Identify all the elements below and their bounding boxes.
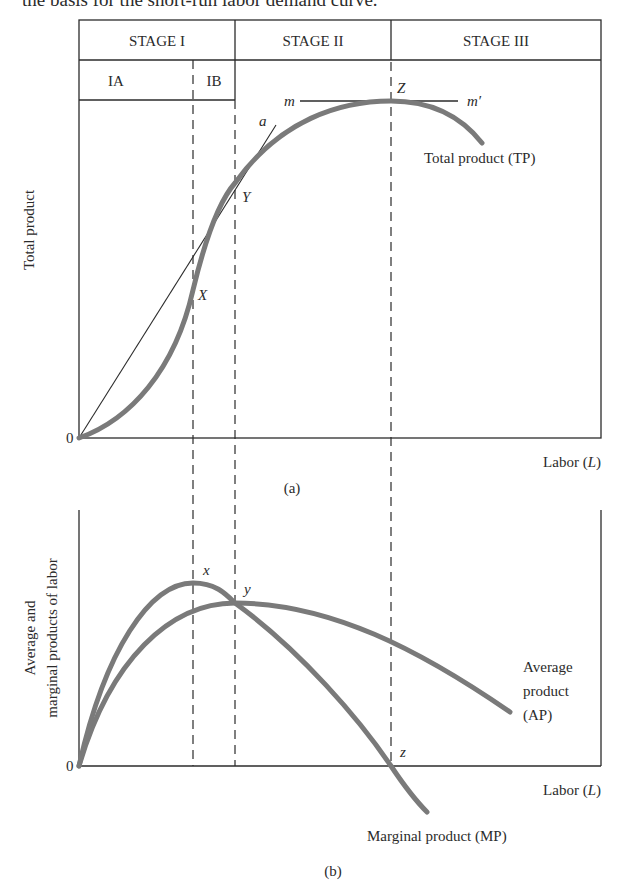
substage-ia-label: IA <box>108 73 124 89</box>
ap-curve-label: Average product (AP) <box>523 659 576 724</box>
substage-ib-label: IB <box>207 73 222 89</box>
panel-a-y-axis-label: Total product <box>21 189 37 270</box>
panel-b-origin-label: 0 <box>66 758 74 774</box>
panel-b-y-axis-label-line1: Average and <box>22 600 38 676</box>
point-label-y-upper: Y <box>242 189 252 205</box>
point-label-x-lower: x <box>202 562 210 578</box>
panel-a: STAGE I STAGE II STAGE III IA IB a m m′ … <box>21 20 601 766</box>
mp-curve-label: Marginal product (MP) <box>367 828 507 845</box>
production-stages-diagram: STAGE I STAGE II STAGE III IA IB a m m′ … <box>0 0 631 891</box>
stage-2-label: STAGE II <box>283 33 344 49</box>
line-label-m-prime: m′ <box>467 93 482 109</box>
panel-a-x-axis-label: Labor (L) <box>543 454 601 471</box>
point-label-x-upper: X <box>197 287 208 303</box>
panel-b-y-axis-label-line2: marginal products of labor <box>44 558 60 717</box>
panel-b-x-axis-label: Labor (L) <box>543 782 601 799</box>
panel-b-caption: (b) <box>324 863 342 880</box>
panel-a-caption: (a) <box>284 480 301 497</box>
tp-curve-label: Total product (TP) <box>424 150 535 167</box>
total-product-curve <box>79 101 482 438</box>
point-label-y-lower: y <box>242 581 251 597</box>
panel-a-origin-label: 0 <box>66 430 74 446</box>
tangent-label-a: a <box>259 113 267 129</box>
stage-1-label: STAGE I <box>129 33 185 49</box>
line-label-m: m <box>284 93 295 109</box>
stage-boundary-dashed-lines <box>193 60 391 766</box>
average-product-curve <box>79 603 510 766</box>
point-label-z-lower: z <box>399 744 406 760</box>
marginal-product-curve <box>79 583 427 812</box>
panel-b: x y z Average product (AP) Marginal prod… <box>22 510 601 880</box>
stage-3-label: STAGE III <box>463 33 529 49</box>
point-label-z-upper: Z <box>397 80 406 96</box>
